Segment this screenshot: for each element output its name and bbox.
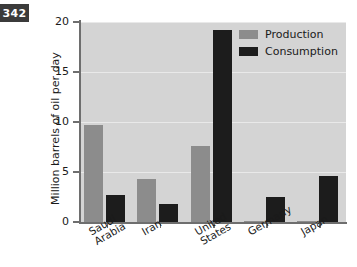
bar-production xyxy=(137,179,156,222)
bar-production xyxy=(191,146,210,222)
y-tick-mark xyxy=(73,171,79,173)
legend-item-production: Production xyxy=(239,26,338,42)
y-axis-title: Million barrels of oil per day xyxy=(49,21,62,236)
gridline xyxy=(80,22,346,23)
bar-chart-figure: Million barrels of oil per day 05101520 … xyxy=(0,0,357,267)
chart-legend: Production Consumption xyxy=(239,26,338,60)
bar-consumption xyxy=(213,30,232,222)
y-tick-mark xyxy=(73,21,79,23)
y-tick-mark xyxy=(73,221,79,223)
y-tick-label: 20 xyxy=(29,16,69,27)
y-tick-mark xyxy=(73,71,79,73)
legend-label-production: Production xyxy=(265,28,324,41)
y-tick-label: 10 xyxy=(29,116,69,127)
bar-production xyxy=(84,125,103,222)
legend-item-consumption: Consumption xyxy=(239,43,338,59)
y-tick-label: 15 xyxy=(29,66,69,77)
y-tick-label: 5 xyxy=(29,166,69,177)
legend-swatch-consumption-icon xyxy=(239,47,258,56)
legend-swatch-production-icon xyxy=(239,30,258,39)
y-tick-mark xyxy=(73,121,79,123)
legend-label-consumption: Consumption xyxy=(265,45,338,58)
y-tick-label: 0 xyxy=(29,216,69,227)
y-axis-line xyxy=(79,20,81,224)
bar-consumption xyxy=(159,204,178,222)
